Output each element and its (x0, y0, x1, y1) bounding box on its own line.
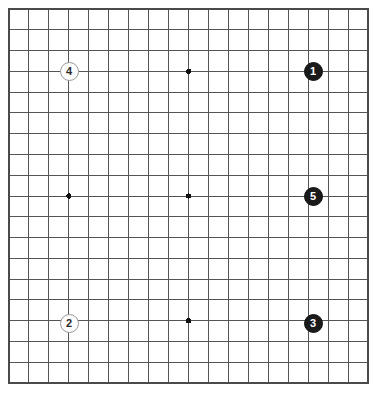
stone-move-number: 2 (66, 317, 72, 328)
go-stone-black-1[interactable]: 1 (304, 62, 323, 81)
star-point (186, 69, 191, 74)
stone-move-number: 5 (310, 190, 316, 201)
stone-move-number: 4 (66, 65, 72, 76)
go-stone-black-5[interactable]: 5 (304, 187, 323, 206)
go-stone-black-3[interactable]: 3 (304, 314, 323, 333)
star-point (186, 318, 191, 323)
go-stone-white-2[interactable]: 2 (60, 314, 79, 333)
go-stone-white-4[interactable]: 4 (60, 62, 79, 81)
star-point (66, 193, 71, 198)
stone-move-number: 3 (310, 317, 316, 328)
go-board-diagram: 12345 (0, 0, 379, 394)
stone-move-number: 1 (310, 65, 316, 76)
star-point (186, 193, 191, 198)
